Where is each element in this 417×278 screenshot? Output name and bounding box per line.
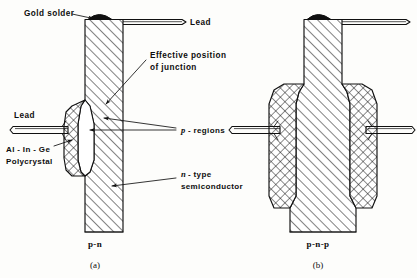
caption-panel-b-letter: (b) [313,260,324,270]
label-p-regions-italic: p [180,125,186,135]
label-alloy-line2: Polycrystal [6,157,53,166]
label-lead-top: Lead [190,18,211,27]
label-effective-position-line2: of junction [150,63,197,72]
caption-panel-b-structure: p-n-p [306,239,329,249]
label-p-regions: p - regions [180,125,225,135]
label-n-type-semiconductor: n - type semiconductor [181,169,243,191]
label-n-type-italic: n [181,169,186,179]
caption-panel-a-structure: p-n [88,239,102,249]
figure-root: Gold solder Lead Effective position of j… [0,0,417,278]
label-n-type-rest: - type [188,170,212,179]
label-alloy-line1: Al - In - Ge [6,145,50,154]
label-gold-solder: Gold solder [24,9,75,18]
label-p-regions-rest: - regions [188,126,225,135]
label-effective-position-line1: Effective position [150,51,226,60]
caption-panel-a-letter: (a) [90,260,100,270]
label-lead-side: Lead [14,111,35,120]
label-layer: Gold solder Lead Effective position of j… [0,0,417,278]
label-n-type-line2: semiconductor [181,182,243,191]
